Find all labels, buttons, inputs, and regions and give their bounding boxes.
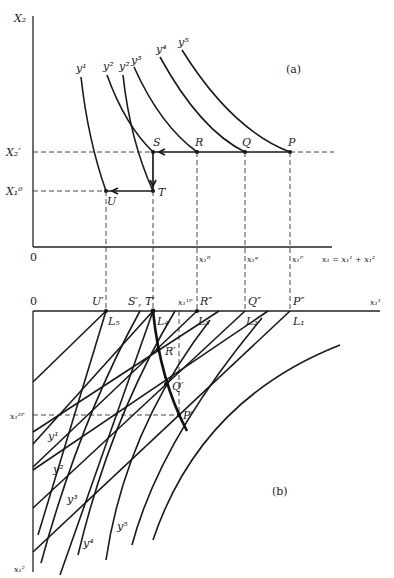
label-r: R (194, 136, 203, 149)
tick-label-x1R: x₁ᴿ (199, 255, 211, 264)
indifference-curves (41, 311, 340, 563)
curve-label-b-y4: y⁴ (82, 537, 94, 550)
label-r-double-prime: R″ (199, 295, 213, 308)
curve-label-y2-a: y² (102, 60, 114, 73)
label-u-prime: U′ (92, 295, 104, 308)
x1-2P-label: x₁²ᴾ (10, 412, 25, 421)
curve-label-y2-b: y² (118, 60, 130, 73)
curve-y2-b (123, 75, 153, 191)
line-L4-a (33, 311, 153, 444)
point-s-t-prime (151, 309, 156, 314)
x1-1-axis-label: x₁¹ (370, 298, 381, 307)
x2-axis-label: X₂ (13, 12, 26, 25)
tick-label-x1P: x₁ᴾ (292, 255, 304, 264)
label-u: U (107, 195, 117, 208)
label-s-t-prime: S′, T′ (128, 295, 155, 308)
label-q: Q (242, 136, 251, 149)
panel-a: X₂ 0 (a) X₂′ X₁⁰ y¹ y² y² y³ y⁴ y⁵ (5, 12, 375, 264)
x1-2-axis-label: x₁² (14, 565, 25, 574)
curve-b-y5 (153, 345, 340, 540)
x2-prime-label: X₂′ (5, 146, 21, 159)
label-L1: L₁ (292, 315, 305, 328)
curve-y2-a (107, 75, 153, 152)
curve-y3 (134, 67, 197, 152)
curve-y1 (81, 77, 106, 191)
tick-label-x1Q: x₁ᵠ (247, 255, 259, 264)
vertical-connectors (106, 152, 290, 311)
curve-label-y1: y¹ (75, 62, 87, 75)
point-r-double-prime (195, 309, 199, 313)
label-x1-1P: x₁¹ᴾ (178, 298, 193, 307)
two-panel-economics-diagram: X₂ 0 (a) X₂′ X₁⁰ y¹ y² y² y³ y⁴ y⁵ (0, 0, 394, 578)
point-s (151, 150, 155, 154)
curve-label-y3: y³ (130, 54, 142, 67)
label-r-prime: R′ (164, 345, 176, 358)
label-q-double-prime: Q″ (248, 295, 262, 308)
curve-label-b-y1: y¹ (47, 430, 59, 443)
label-s: S (153, 136, 161, 149)
panel-b-tag: (b) (272, 485, 288, 498)
origin-label-b: 0 (30, 295, 37, 308)
label-p: P (287, 136, 296, 149)
panel-a-tag: (a) (286, 63, 301, 76)
origin-label: 0 (30, 251, 37, 264)
label-p-prime: P′ (182, 409, 193, 422)
line-L2-b (33, 311, 268, 470)
budget-lines (33, 311, 290, 575)
label-L5: L₅ (107, 315, 120, 328)
point-u-prime (104, 309, 108, 313)
curve-label-b-y5: y⁵ (116, 520, 128, 533)
point-p-prime (177, 413, 181, 417)
curve-label-y4: y⁴ (155, 43, 167, 56)
label-q-prime: Q′ (172, 380, 184, 393)
curve-label-y5: y⁵ (177, 36, 189, 49)
curve-label-b-y3: y³ (66, 493, 78, 506)
point-q-prime (164, 382, 168, 386)
label-p-double-prime: P″ (292, 295, 305, 308)
x1-axis-label: x₁ = x₁¹ + x₁² (322, 255, 375, 264)
curve-label-b-y2: y² (52, 463, 64, 476)
x1-zero-label: X₁⁰ (5, 185, 23, 198)
point-r-prime (156, 347, 160, 351)
label-t: T (158, 186, 167, 199)
panel-b: 0 x₁¹ x₁² (b) U′ S′, T′ x₁¹ᴾ R″ Q″ P″ L₁… (10, 295, 381, 575)
